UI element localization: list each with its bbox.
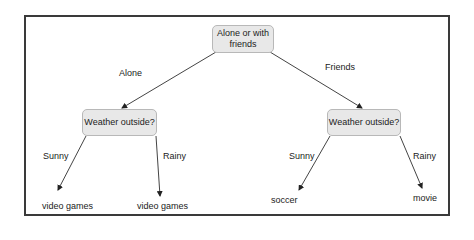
- edge-right-rainy: [400, 136, 422, 188]
- edge-label-left-rainy: Rainy: [163, 151, 186, 161]
- root-node-label: Alone or with friends: [213, 28, 273, 50]
- root-node: Alone or with friends: [212, 25, 274, 53]
- edge-left-rainy: [156, 136, 160, 196]
- edge-right-sunny: [299, 136, 330, 190]
- leaf-left-rainy: video games: [137, 201, 188, 211]
- right-weather-label: Weather outside?: [329, 117, 399, 128]
- leaf-right-sunny: soccer: [271, 195, 298, 205]
- edge-friends: [270, 52, 362, 108]
- edge-label-right-rainy: Rainy: [413, 151, 436, 161]
- edge-label-right-sunny: Sunny: [289, 151, 315, 161]
- left-weather-node: Weather outside?: [82, 109, 157, 136]
- edge-alone: [122, 52, 216, 108]
- edge-label-alone: Alone: [119, 68, 142, 78]
- edge-label-friends: Friends: [325, 62, 355, 72]
- edge-label-left-sunny: Sunny: [43, 151, 69, 161]
- edge-left-sunny: [58, 136, 86, 190]
- left-weather-label: Weather outside?: [84, 117, 154, 128]
- leaf-right-rainy: movie: [413, 193, 437, 203]
- leaf-left-sunny: video games: [42, 201, 93, 211]
- right-weather-node: Weather outside?: [327, 109, 401, 136]
